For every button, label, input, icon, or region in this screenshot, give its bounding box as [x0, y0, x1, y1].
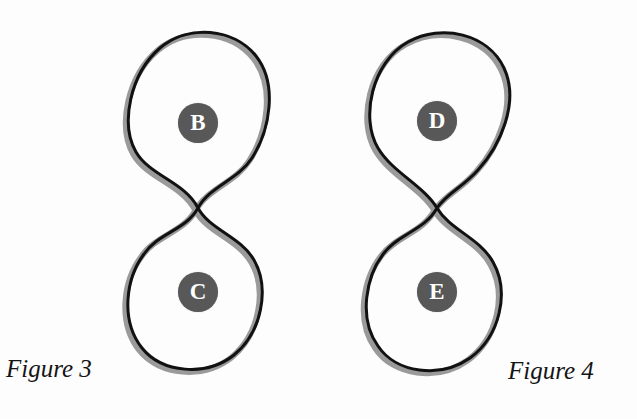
region-label-e-text: E — [429, 280, 444, 303]
region-label-b: B — [178, 103, 218, 143]
figure-4-curve — [364, 33, 510, 373]
region-label-c: C — [178, 272, 218, 312]
figure-3-curve — [125, 32, 269, 372]
figure-canvas: B C D E Figure 3 Figure 4 — [0, 0, 637, 419]
region-label-c-text: C — [190, 280, 207, 303]
region-label-d-text: D — [429, 109, 446, 132]
region-label-e: E — [417, 272, 457, 312]
figure-4-caption: Figure 4 — [508, 357, 594, 385]
region-label-b-text: B — [190, 111, 205, 134]
region-label-d: D — [417, 101, 457, 141]
figure-3-caption: Figure 3 — [6, 355, 92, 383]
